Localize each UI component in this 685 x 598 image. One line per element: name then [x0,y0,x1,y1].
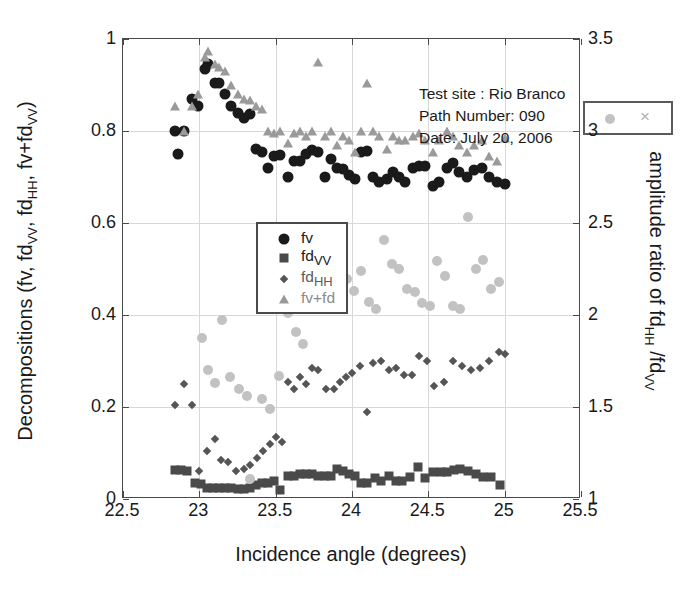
data-point-fv-fd [350,147,360,156]
data-point-fv [313,146,324,157]
y-tick-label-left: 0.2 [91,396,116,417]
data-point-amplitude-ratio [471,264,481,274]
y-tick-label-left: 0.6 [91,212,116,233]
data-point-fv [172,149,183,160]
data-point-fd_VV [183,467,192,476]
y-tick-right [573,223,579,224]
data-point-fd_HH [363,407,371,415]
data-point-amplitude-ratio [440,271,450,281]
data-point-fv [400,176,411,187]
legend-symbol-square-icon [267,247,301,268]
data-point-amplitude-ratio [425,301,435,311]
data-point-fv [275,149,286,160]
data-point-fv-fd [170,101,180,110]
x-tick-label: 23.5 [257,500,292,521]
data-point-amplitude-ratio [410,287,420,297]
x-axis-title: Incidence angle (degrees) [122,543,580,566]
legend-item[interactable]: fdHH [267,268,335,289]
data-point-fd_HH [423,357,431,365]
legend-symbol-circle-icon [267,229,301,247]
data-point-fv-fd [374,131,384,140]
legend-label: fv+fd [301,289,335,307]
data-point-amplitude-ratio [257,394,267,404]
legend-symbol-triangle-icon [267,289,301,307]
data-point-fd_HH [195,467,203,475]
annotation-test-site: Test site : Rio Branco [419,83,565,105]
legend-item[interactable]: fdVV [267,247,335,268]
data-point-amplitude-ratio [356,266,366,276]
data-point-fd_HH [467,366,475,374]
data-point-fd_VV [270,476,279,485]
x-tick-top [352,491,353,497]
x-tick-top [428,491,429,497]
data-point-fv-fd [203,46,213,55]
data-point-fd_HH [377,357,385,365]
data-point-fv-fd [332,140,342,149]
data-point-fd_HH [203,446,211,454]
legend-item[interactable]: fv [267,229,335,247]
data-point-fd_HH [500,350,508,358]
data-point-fv [282,172,293,183]
data-point-amplitude-ratio [245,474,255,484]
gridline-horizontal [123,223,579,224]
data-point-fv [214,77,225,88]
x-tick [505,39,506,45]
data-point-amplitude-ratio [432,256,442,266]
annotation-block: Test site : Rio Branco Path Number: 090 … [419,83,565,149]
data-point-fd_HH [302,380,310,388]
legend-label: fv [301,229,335,247]
y-tick-label-left: 0 [106,488,116,509]
x-tick-top [123,491,124,497]
data-point-fv-fd [356,127,366,136]
x-tick-label: 25 [494,500,514,521]
gridline-horizontal [123,315,579,316]
y-tick-label-right: 3 [588,120,598,141]
annotation-path-number: Path Number: 090 [419,105,565,127]
data-point-fv-fd [226,81,236,90]
y-axis-title-left: Decompositions (fv, fdVV, fdHH, fv+fdVV) [14,36,40,506]
y-tick-left [123,223,129,224]
x-tick [199,39,200,45]
data-point-amplitude-ratio [291,327,301,337]
data-point-fd_VV [496,481,505,490]
y-tick-right [573,39,579,40]
data-point-amplitude-ratio [463,212,473,222]
data-point-fv-fd [382,145,392,154]
y-tick-left [123,315,129,316]
data-point-amplitude-ratio [349,286,359,296]
data-point-fd_HH [290,384,298,392]
y-tick-label-right: 2.5 [588,212,613,233]
data-point-fv-fd [307,127,317,136]
legend-symbol-diamond-icon [267,268,301,289]
legend-label: fdVV [301,247,335,268]
data-point-fv [319,172,330,183]
data-point-fv-fd [257,104,267,113]
y-tick-label-right: 3.5 [588,28,613,49]
x-tick-top [581,491,582,497]
legend-main[interactable]: fvfdVVfdHHfv+fd [256,222,348,314]
data-point-fd_HH [449,357,457,365]
data-point-amplitude-ratio [210,378,220,388]
data-point-amplitude-ratio [298,339,308,349]
y-tick-right [573,131,579,132]
data-point-fv-fd [492,156,502,165]
legend-main-table: fvfdVVfdHHfv+fd [267,229,335,307]
data-point-amplitude-ratio [379,235,389,245]
x-tick [276,39,277,45]
y-tick-label-left: 0.8 [91,120,116,141]
data-point-fd_HH [265,440,273,448]
x-tick-label: 24 [341,500,361,521]
y-tick-label-right: 2 [588,304,598,325]
y-tick-label-left: 0.4 [91,304,116,325]
data-point-fv [263,162,274,173]
y-tick-left [123,39,129,40]
x-tick-top [505,491,506,497]
data-point-fd_HH [284,377,292,385]
data-point-fv-fd [179,127,189,136]
data-point-fd_HH [180,380,188,388]
data-point-amplitude-ratio [197,333,207,343]
legend-item[interactable]: fv+fd [267,289,335,307]
data-point-fd_VV [406,472,415,481]
annotation-date: Date: July 20, 2006 [419,127,565,149]
y-axis-title-right: amplitude ratio of fdHH /fdVV [642,36,668,506]
